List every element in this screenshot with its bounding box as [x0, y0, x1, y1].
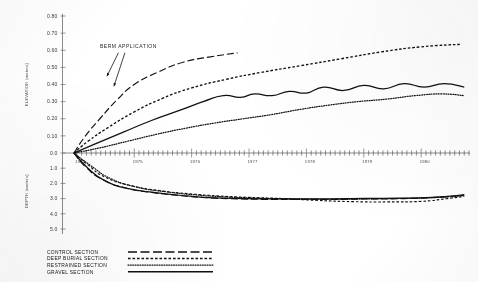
y-axis-titles: ELEVATION (meters)DEPTH (meters): [24, 62, 29, 207]
y-tick-label-upper: 0.10: [47, 133, 58, 139]
y-tick-label-upper: 0.0: [50, 150, 58, 156]
y-tick-label-upper: 0.40: [47, 81, 58, 87]
y-axis-upper-tick-labels: 0.00.100.200.300.400.500.600.700.80: [47, 13, 58, 156]
y-tick-label-lower: 5.0: [50, 226, 58, 232]
legend-label: RESTRAINED SECTION: [47, 263, 107, 268]
series-line: [74, 44, 461, 153]
series-line: [74, 84, 464, 153]
legend: CONTROL SECTIONDEEP BURIAL SECTIONRESTRA…: [47, 250, 213, 275]
chart-figure: 0.00.100.200.300.400.500.600.700.80 1.02…: [0, 0, 478, 282]
data-curves: [74, 44, 464, 202]
series-line: [74, 53, 238, 153]
x-tick-label: 1977: [247, 159, 258, 164]
y-tick-label-upper: 0.30: [47, 98, 58, 104]
legend-label: GRAVEL SECTION: [47, 270, 94, 275]
y-tick-label-lower: 2.0: [50, 180, 58, 186]
legend-label: DEEP BURIAL SECTION: [47, 256, 108, 261]
y-tick-label-upper: 0.60: [47, 47, 58, 53]
y-axis-title-lower: DEPTH (meters): [24, 174, 29, 208]
y-tick-label-lower: 1.0: [50, 165, 58, 171]
y-tick-label-lower: 4.0: [50, 211, 58, 217]
annotation-arrow-left: [107, 53, 119, 77]
x-tick-label: 1978: [305, 159, 316, 164]
y-axis-ticks: [61, 16, 66, 229]
x-tick-label: 1979: [362, 159, 373, 164]
y-tick-label-upper: 0.20: [47, 115, 58, 121]
annotation-label: BERM APPLICATION: [100, 43, 157, 49]
x-tick-label: 1980: [420, 159, 431, 164]
annotation-arrow-right-head: [114, 83, 117, 86]
x-axis-tick-labels: 1974197519761977197819791980: [75, 159, 430, 164]
berm-application-annotation: BERM APPLICATION: [100, 43, 157, 86]
chart-svg: 0.00.100.200.300.400.500.600.700.80 1.02…: [0, 0, 478, 282]
x-tick-label: 1975: [133, 159, 144, 164]
x-axis: [63, 149, 471, 158]
legend-label: CONTROL SECTION: [47, 250, 98, 255]
y-axis-lower-tick-labels: 1.02.03.04.05.0: [50, 165, 58, 232]
series-line: [74, 94, 464, 153]
y-tick-label-upper: 0.50: [47, 64, 58, 70]
y-tick-label-upper: 0.70: [47, 30, 58, 36]
y-tick-label-upper: 0.80: [47, 13, 58, 19]
x-tick-label: 1976: [190, 159, 201, 164]
y-tick-label-lower: 3.0: [50, 195, 58, 201]
y-axis-title-upper: ELEVATION (meters): [24, 62, 29, 106]
